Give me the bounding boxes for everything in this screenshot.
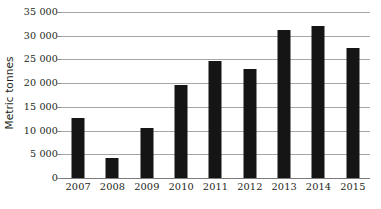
x-tick-label: 2010 bbox=[168, 181, 193, 193]
y-tick-label: 10 000 bbox=[14, 126, 58, 136]
bar[interactable] bbox=[278, 30, 291, 178]
bar-slot bbox=[198, 12, 232, 178]
x-axis-tick-labels: 200720082009201020112012201320142015 bbox=[61, 181, 370, 197]
bar-slot bbox=[61, 12, 95, 178]
bar[interactable] bbox=[312, 26, 325, 178]
x-tick-label: 2008 bbox=[100, 181, 125, 193]
y-tick-label: 5 000 bbox=[14, 149, 58, 159]
y-tick-label: 0 bbox=[14, 173, 58, 183]
y-tick-label: 20 000 bbox=[14, 78, 58, 88]
y-tick-label: 35 000 bbox=[14, 7, 58, 17]
bar[interactable] bbox=[72, 118, 85, 178]
bar-slot bbox=[164, 12, 198, 178]
bar-chart-figure: Metric tonnes 05 00010 00015 00020 00025… bbox=[0, 0, 381, 209]
bar-slot bbox=[336, 12, 370, 178]
plot-area bbox=[61, 12, 370, 178]
bar-slot bbox=[301, 12, 335, 178]
bar[interactable] bbox=[175, 85, 188, 178]
y-tick-label: 15 000 bbox=[14, 102, 58, 112]
y-tick-label: 30 000 bbox=[14, 31, 58, 41]
bars-group bbox=[61, 12, 370, 178]
x-tick-label: 2014 bbox=[306, 181, 331, 193]
x-tick-label: 2012 bbox=[237, 181, 262, 193]
bar[interactable] bbox=[243, 69, 256, 178]
bar-slot bbox=[233, 12, 267, 178]
x-tick-label: 2009 bbox=[134, 181, 159, 193]
y-axis-tick-labels: 05 00010 00015 00020 00025 00030 00035 0… bbox=[14, 12, 58, 178]
bar-slot bbox=[267, 12, 301, 178]
bar-slot bbox=[95, 12, 129, 178]
bar[interactable] bbox=[209, 61, 222, 178]
x-tick-label: 2007 bbox=[65, 181, 90, 193]
x-tick-label: 2013 bbox=[271, 181, 296, 193]
bar[interactable] bbox=[346, 48, 359, 178]
x-tick-label: 2011 bbox=[203, 181, 228, 193]
bar-slot bbox=[130, 12, 164, 178]
y-tick-mark bbox=[57, 178, 61, 179]
bar[interactable] bbox=[106, 158, 119, 178]
x-axis-line bbox=[61, 178, 370, 179]
x-tick-label: 2015 bbox=[340, 181, 365, 193]
bar[interactable] bbox=[140, 128, 153, 178]
y-tick-label: 25 000 bbox=[14, 55, 58, 65]
